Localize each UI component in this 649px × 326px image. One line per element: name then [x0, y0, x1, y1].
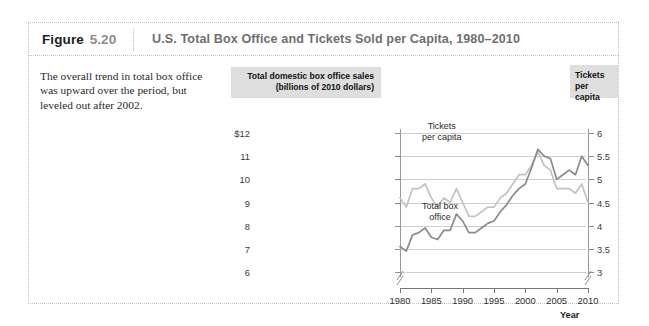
axis-break-slash: [585, 271, 591, 280]
axis-break-slash: [397, 271, 403, 280]
x-axis-label: Year: [560, 310, 579, 320]
figure-label-word: Figure: [42, 32, 84, 47]
axis-break-slash: [397, 276, 403, 285]
axis-break-slash: [585, 276, 591, 285]
annotation-total-box-office: Total boxoffice: [422, 201, 458, 223]
figure-header: Figure 5.20 U.S. Total Box Office and Ti…: [29, 23, 618, 56]
figure-label: Figure 5.20: [29, 32, 133, 47]
figure-container: Figure 5.20 U.S. Total Box Office and Ti…: [28, 22, 619, 304]
figure-title: U.S. Total Box Office and Tickets Sold p…: [135, 32, 520, 46]
figure-caption: The overall trend in total box office wa…: [40, 69, 212, 112]
annotation-tickets-per-capita: Ticketsper capita: [422, 121, 462, 143]
figure-number: 5.20: [90, 32, 116, 47]
axis-break-marks: [222, 63, 618, 303]
chart: Total domestic box office sales (billion…: [222, 63, 618, 303]
